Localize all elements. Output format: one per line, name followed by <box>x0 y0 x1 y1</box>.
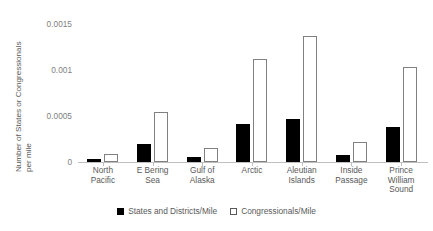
x-axis-tick-mark <box>202 162 203 166</box>
bar-group <box>177 24 227 162</box>
legend-swatch-icon <box>230 208 237 215</box>
bar-congressionals <box>204 148 218 162</box>
y-axis-tick-labels: 00.00050.0010.0015 <box>20 0 72 180</box>
y-axis-tick-label: 0.0005 <box>32 112 72 120</box>
legend-label: States and Districts/Mile <box>128 206 217 216</box>
bar-chart: Number of States or Congressionals per m… <box>0 0 433 231</box>
x-axis-category-labels: North PacificE Bering SeaGulf of AlaskaA… <box>78 166 428 208</box>
bar-congressionals <box>104 154 118 162</box>
chart-legend: States and Districts/MileCongressionals/… <box>0 206 433 216</box>
y-axis-tick-label: 0.0015 <box>32 20 72 28</box>
bar-states-districts <box>286 119 300 162</box>
bar-states-districts <box>137 144 151 162</box>
x-axis-tick-mark <box>103 162 104 166</box>
bar-congressionals <box>154 112 168 162</box>
bar-congressionals <box>353 142 367 162</box>
plot-area <box>78 24 426 162</box>
x-axis-category-label: Arctic <box>227 166 277 176</box>
y-axis-tick-label: 0 <box>32 158 72 166</box>
x-axis-category-label: Prince William Sound <box>376 166 426 195</box>
legend-item[interactable]: Congressionals/Mile <box>230 206 316 216</box>
bar-group <box>128 24 178 162</box>
legend-label: Congressionals/Mile <box>241 206 316 216</box>
bar-group <box>376 24 426 162</box>
bar-states-districts <box>336 155 350 162</box>
y-axis-tick-label: 0.001 <box>32 66 72 74</box>
x-axis-category-label: Gulf of Alaska <box>177 166 227 185</box>
bar-group <box>327 24 377 162</box>
legend-item[interactable]: States and Districts/Mile <box>117 206 217 216</box>
bar-states-districts <box>386 127 400 162</box>
bar-states-districts <box>236 124 250 162</box>
x-axis-category-label: North Pacific <box>78 166 128 185</box>
bar-congressionals <box>253 59 267 162</box>
x-axis-line <box>78 162 428 163</box>
x-axis-tick-mark <box>153 162 154 166</box>
bar-group <box>277 24 327 162</box>
x-axis-tick-mark <box>252 162 253 166</box>
x-axis-category-label: Inside Passage <box>327 166 377 185</box>
x-axis-tick-mark <box>302 162 303 166</box>
legend-swatch-icon <box>117 208 124 215</box>
x-axis-tick-mark <box>401 162 402 166</box>
bar-congressionals <box>303 36 317 162</box>
bar-group <box>227 24 277 162</box>
bar-group <box>78 24 128 162</box>
bar-congressionals <box>403 67 417 162</box>
x-axis-category-label: Aleutian Islands <box>277 166 327 185</box>
x-axis-tick-mark <box>351 162 352 166</box>
x-axis-category-label: E Bering Sea <box>128 166 178 185</box>
